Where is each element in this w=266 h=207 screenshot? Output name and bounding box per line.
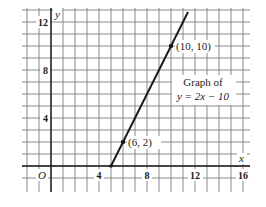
y-axis-label: y (54, 8, 60, 20)
x-axis-label: x (238, 152, 244, 164)
x-tick-4: 4 (97, 170, 102, 181)
point-label-10-10: (10, 10) (176, 40, 211, 53)
point-x-intercept (109, 164, 113, 168)
x-tick-16: 16 (238, 170, 248, 181)
caption-line-1: Graph of (183, 76, 223, 88)
point-10-10 (169, 44, 173, 48)
x-tick-8: 8 (145, 170, 150, 181)
point-6-2 (121, 140, 125, 144)
origin-label: O (38, 169, 46, 181)
point-label-6-2: (6, 2) (128, 136, 152, 149)
y-tick-12: 12 (38, 17, 48, 28)
graph-canvas: 4 8 12 16 12 8 4 O y x (6, 2) (10, 10) G… (0, 0, 266, 207)
y-tick-4: 4 (43, 113, 48, 124)
y-tick-8: 8 (43, 65, 48, 76)
x-tick-12: 12 (190, 170, 200, 181)
caption-line-2: y = 2x − 10 (176, 90, 230, 102)
